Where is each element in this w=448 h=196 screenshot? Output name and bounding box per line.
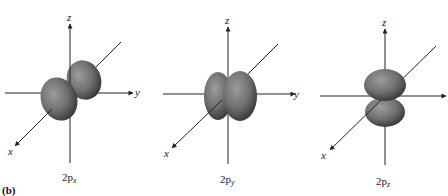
x-axis-label: x bbox=[320, 149, 326, 161]
x-axis-label: x bbox=[163, 147, 169, 159]
orbital-caption: 2py bbox=[220, 173, 235, 187]
z-axis-label: z bbox=[381, 16, 387, 28]
x-axis-line bbox=[15, 109, 52, 146]
x-axis-line bbox=[330, 100, 381, 150]
caption-main: 2p bbox=[376, 175, 388, 187]
x-axis-line bbox=[172, 100, 222, 148]
caption-main: 2p bbox=[62, 171, 74, 183]
caption-subscript: x bbox=[72, 176, 77, 185]
y-axis-label: y bbox=[293, 88, 299, 100]
orbital-panel-2py: z y x 2py bbox=[163, 14, 299, 187]
x-axis-label: x bbox=[7, 145, 13, 157]
orbital-lobe-right bbox=[223, 71, 257, 121]
orbital-lobe-bottom bbox=[365, 97, 405, 127]
orbital-caption: 2pz bbox=[376, 175, 391, 189]
panel-letter: (b) bbox=[2, 184, 16, 196]
orbital-panel-2px: z y x 2px (b) bbox=[2, 11, 140, 196]
z-axis-label: z bbox=[224, 14, 230, 26]
orbital-caption: 2px bbox=[62, 171, 77, 185]
orbital-panel-2pz: z x 2pz bbox=[320, 16, 446, 189]
caption-subscript: z bbox=[386, 180, 391, 189]
caption-subscript: y bbox=[230, 178, 235, 187]
orbital-lobe-top bbox=[364, 69, 406, 101]
y-axis-label: y bbox=[134, 86, 140, 98]
caption-main: 2p bbox=[220, 173, 232, 185]
p-orbitals-figure: z y x 2px (b) z y x 2py z x 2pz bbox=[0, 0, 448, 196]
z-axis-label: z bbox=[66, 11, 72, 23]
